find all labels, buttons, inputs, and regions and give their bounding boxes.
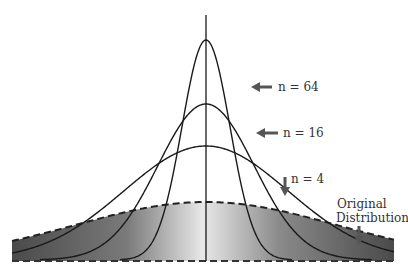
diagram-canvas: n = 64 n = 16 n = 4 Original Distributio…: [0, 0, 408, 273]
label-original-line2: Distribution: [336, 211, 408, 225]
arrow-left-icon: [256, 128, 278, 138]
arrow-down-icon: [280, 177, 290, 196]
label-n64: n = 64: [278, 80, 319, 94]
arrow-left-icon: [251, 82, 272, 92]
sampling-distribution-diagram: n = 64 n = 16 n = 4 Original Distributio…: [0, 0, 408, 273]
label-original-line1: Original: [337, 197, 387, 211]
label-n16: n = 16: [283, 126, 324, 140]
label-n4: n = 4: [291, 172, 324, 186]
